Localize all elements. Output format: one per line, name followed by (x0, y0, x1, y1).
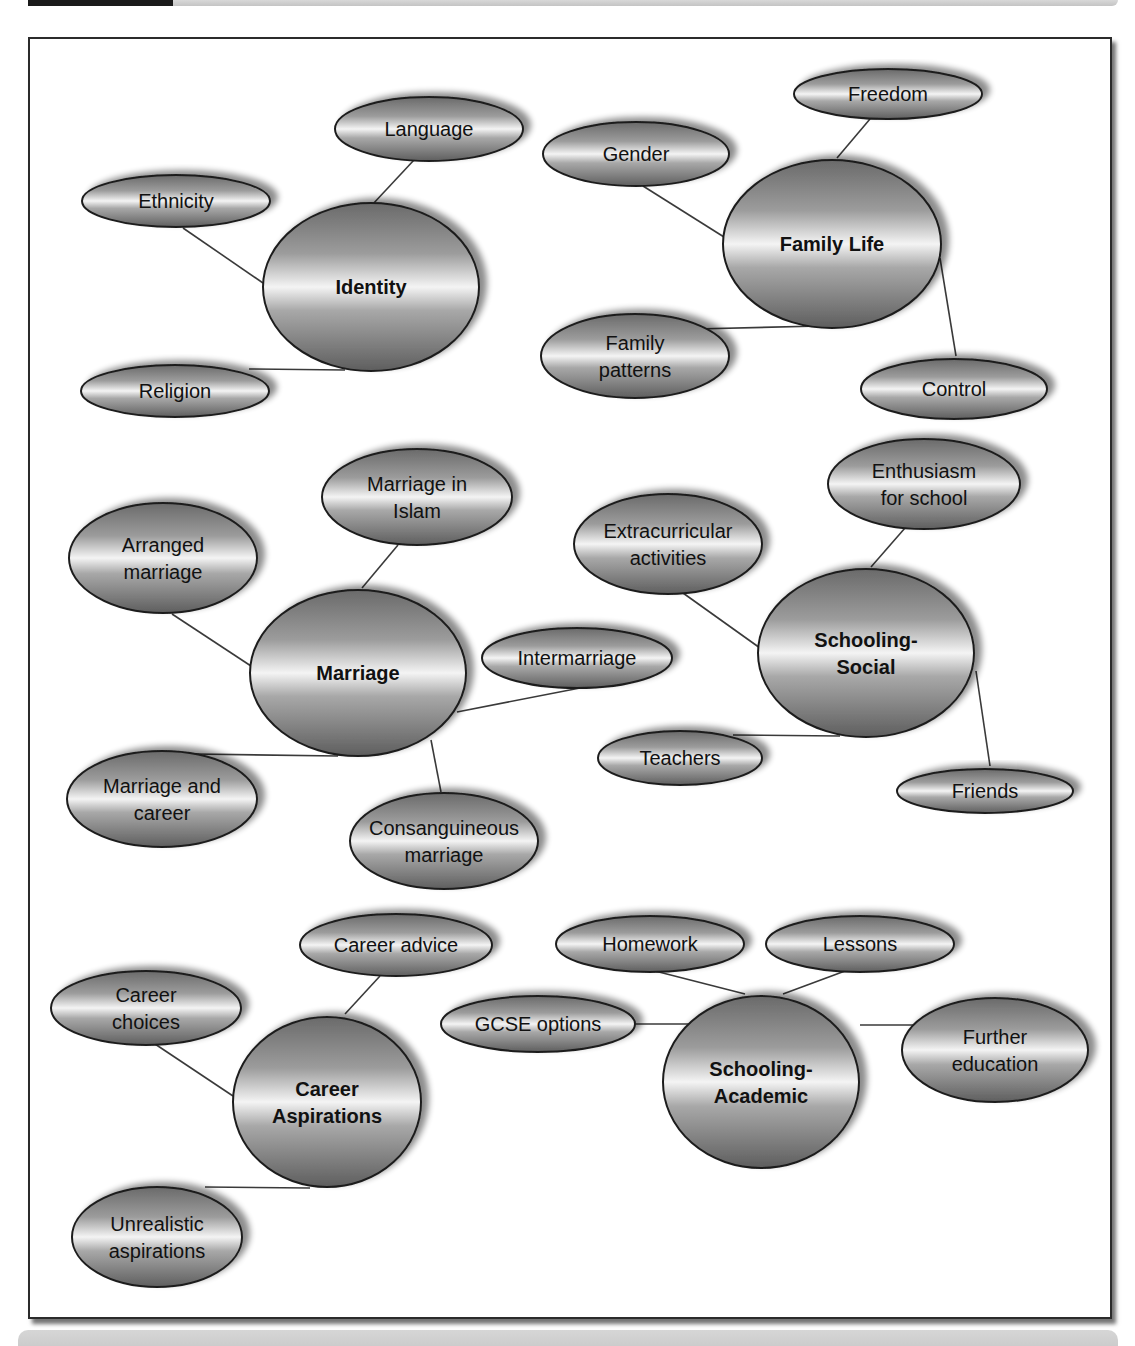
leaf-label: Consanguineous (369, 817, 519, 839)
leaf-node-schooling-social-3: Friends (897, 769, 1073, 813)
leaf-label: patterns (599, 359, 671, 381)
leaf-label: for school (881, 487, 968, 509)
hub-node-schooling-social: Schooling-Social (758, 569, 974, 737)
leaf-label: Career (115, 984, 176, 1006)
hub-node-schooling-academic: Schooling-Academic (663, 996, 859, 1168)
connector-line-schooling-social-1 (683, 593, 760, 648)
leaf-node-schooling-social-2: Teachers (598, 731, 762, 785)
hub-label: Social (837, 656, 896, 678)
leaf-ellipse (69, 503, 257, 613)
leaf-node-career-aspirations-1: Careerchoices (51, 971, 241, 1045)
leaf-label: Marriage in (367, 473, 467, 495)
connector-line-schooling-social-0 (871, 528, 905, 567)
leaf-node-career-aspirations-0: Career advice (300, 914, 492, 976)
leaf-label: marriage (124, 561, 203, 583)
leaf-ellipse (541, 314, 729, 398)
connector-line-family-life-2 (695, 326, 820, 329)
leaf-node-schooling-academic-2: GCSE options (441, 996, 635, 1052)
leaf-label: activities (630, 547, 707, 569)
hub-node-marriage: Marriage (250, 590, 466, 756)
hub-label: Academic (714, 1085, 809, 1107)
connector-line-career-aspirations-1 (155, 1044, 233, 1096)
connector-line-marriage-4 (431, 740, 441, 792)
leaf-label: Freedom (848, 83, 928, 105)
connector-line-identity-1 (183, 228, 263, 283)
leaf-node-family-life-3: Control (861, 359, 1047, 419)
leaf-ellipse (350, 793, 538, 889)
leaf-label: Religion (139, 380, 211, 402)
leaf-node-marriage-0: Marriage inIslam (322, 449, 512, 545)
leaf-label: Further (963, 1026, 1028, 1048)
leaf-label: Control (922, 378, 986, 400)
hub-ellipse (663, 996, 859, 1168)
leaf-node-marriage-4: Consanguineousmarriage (350, 793, 538, 889)
leaf-label: Gender (603, 143, 670, 165)
connector-line-identity-2 (249, 369, 345, 370)
connector-line-marriage-0 (362, 545, 398, 588)
hub-label: Marriage (316, 662, 399, 684)
leaf-node-schooling-social-1: Extracurricularactivities (574, 494, 762, 594)
hub-label: Schooling- (814, 629, 917, 651)
leaf-ellipse (67, 751, 257, 847)
hub-ellipse (233, 1017, 421, 1187)
hub-label: Family Life (780, 233, 884, 255)
connector-line-marriage-2 (457, 688, 580, 712)
connector-line-schooling-academic-0 (655, 971, 745, 994)
leaf-node-marriage-3: Marriage andcareer (67, 751, 257, 847)
leaf-label: Intermarriage (518, 647, 637, 669)
hub-label: Aspirations (272, 1105, 382, 1127)
leaf-label: Extracurricular (604, 520, 733, 542)
connector-line-schooling-social-3 (976, 671, 990, 766)
leaf-label: choices (112, 1011, 180, 1033)
leaf-node-marriage-1: Arrangedmarriage (69, 503, 257, 613)
connector-line-family-life-1 (643, 186, 724, 237)
leaf-node-schooling-social-0: Enthusiasmfor school (828, 439, 1020, 529)
leaf-label: Teachers (639, 747, 720, 769)
leaf-label: Career advice (334, 934, 459, 956)
leaf-label: Unrealistic (110, 1213, 203, 1235)
connector-line-identity-0 (372, 160, 414, 205)
leaf-label: Language (385, 118, 474, 140)
leaf-label: Friends (952, 780, 1019, 802)
leaf-node-schooling-academic-1: Lessons (766, 916, 954, 972)
leaf-node-schooling-academic-0: Homework (556, 916, 744, 972)
leaf-node-family-life-0: Freedom (794, 69, 982, 119)
connector-line-marriage-1 (172, 614, 251, 666)
leaf-ellipse (574, 494, 762, 594)
leaf-label: GCSE options (475, 1013, 602, 1035)
leaf-label: aspirations (109, 1240, 206, 1262)
leaf-ellipse (828, 439, 1020, 529)
connector-line-career-aspirations-2 (205, 1187, 310, 1188)
connector-line-schooling-academic-1 (783, 971, 845, 994)
leaf-ellipse (322, 449, 512, 545)
hub-node-family-life: Family Life (723, 160, 941, 328)
leaf-node-schooling-academic-3: Furthereducation (902, 998, 1088, 1102)
leaf-label: Enthusiasm (872, 460, 977, 482)
nodes-layer: LanguageEthnicityReligionIdentityFreedom… (51, 69, 1088, 1287)
connector-line-schooling-social-2 (733, 735, 840, 736)
connector-line-family-life-0 (837, 119, 870, 158)
leaf-label: Arranged (122, 534, 204, 556)
mind-map-diagram: LanguageEthnicityReligionIdentityFreedom… (0, 0, 1135, 1346)
hub-label: Career (295, 1078, 359, 1100)
leaf-node-family-life-2: Familypatterns (541, 314, 729, 398)
connector-line-marriage-3 (193, 754, 338, 756)
connector-line-family-life-3 (940, 258, 956, 356)
hub-label: Identity (335, 276, 407, 298)
connector-line-career-aspirations-0 (345, 976, 380, 1014)
hub-label: Schooling- (709, 1058, 812, 1080)
leaf-label: career (134, 802, 191, 824)
leaf-ellipse (51, 971, 241, 1045)
leaf-node-career-aspirations-2: Unrealisticaspirations (72, 1187, 242, 1287)
leaf-node-identity-0: Language (335, 97, 523, 161)
hub-ellipse (758, 569, 974, 737)
leaf-node-family-life-1: Gender (543, 122, 729, 186)
leaf-label: Lessons (823, 933, 898, 955)
leaf-node-identity-2: Religion (81, 365, 269, 417)
leaf-node-identity-1: Ethnicity (82, 175, 270, 227)
leaf-label: Islam (393, 500, 441, 522)
hub-node-identity: Identity (263, 203, 479, 371)
leaf-label: Marriage and (103, 775, 221, 797)
leaf-label: marriage (405, 844, 484, 866)
leaf-label: Ethnicity (138, 190, 214, 212)
